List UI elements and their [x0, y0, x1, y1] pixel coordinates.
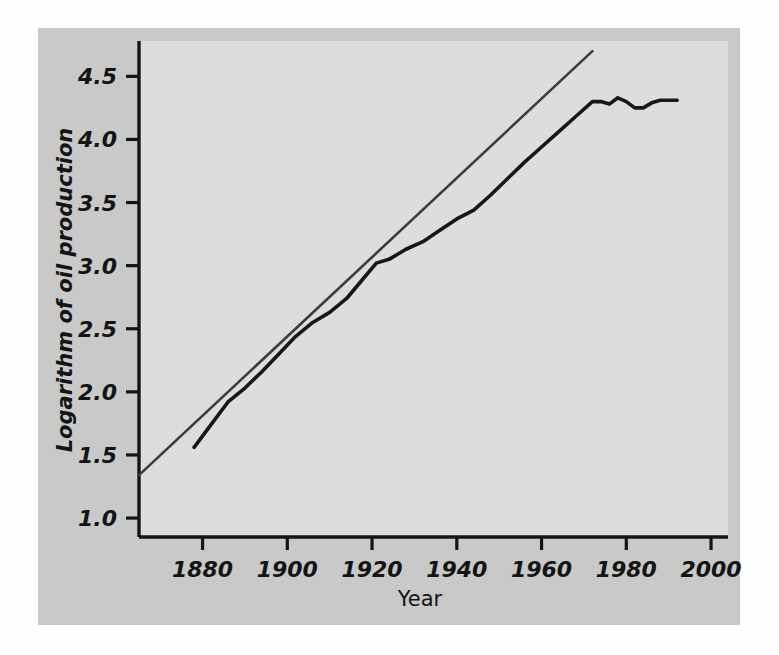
x-tick-label-1940: 1940	[426, 557, 487, 582]
line-chart: 1.01.52.02.53.03.54.04.5 188019001920194…	[0, 0, 779, 655]
y-axis-ticks	[126, 76, 139, 518]
x-tick-label-1980: 1980	[596, 557, 657, 582]
y-tick-labels: 1.01.52.02.53.03.54.04.5	[77, 64, 117, 531]
fit-line	[139, 51, 592, 475]
y-tick-label-2.0: 2.0	[78, 380, 117, 405]
figure-root: 1.01.52.02.53.03.54.04.5 188019001920194…	[0, 0, 779, 655]
y-tick-label-3.5: 3.5	[78, 191, 117, 216]
y-axis-title: Logarithm of oil production	[53, 128, 77, 453]
x-tick-label-1880: 1880	[172, 557, 233, 582]
x-tick-label-1920: 1920	[341, 557, 402, 582]
y-tick-label-2.5: 2.5	[78, 317, 117, 342]
data-line	[194, 98, 677, 448]
x-axis-title: Year	[397, 587, 443, 611]
chart-svg-wrapper: 1.01.52.02.53.03.54.04.5 188019001920194…	[0, 0, 779, 655]
y-tick-label-3.0: 3.0	[78, 254, 117, 279]
y-tick-label-1.5: 1.5	[78, 443, 117, 468]
x-axis-ticks	[203, 537, 711, 550]
x-tick-label-1960: 1960	[511, 557, 572, 582]
y-tick-label-1.0: 1.0	[78, 506, 117, 531]
x-tick-label-2000: 2000	[680, 557, 741, 582]
y-tick-label-4.5: 4.5	[77, 64, 117, 89]
x-tick-labels: 1880190019201940196019802000	[172, 557, 742, 582]
x-tick-label-1900: 1900	[257, 557, 318, 582]
y-tick-label-4.0: 4.0	[77, 127, 117, 152]
